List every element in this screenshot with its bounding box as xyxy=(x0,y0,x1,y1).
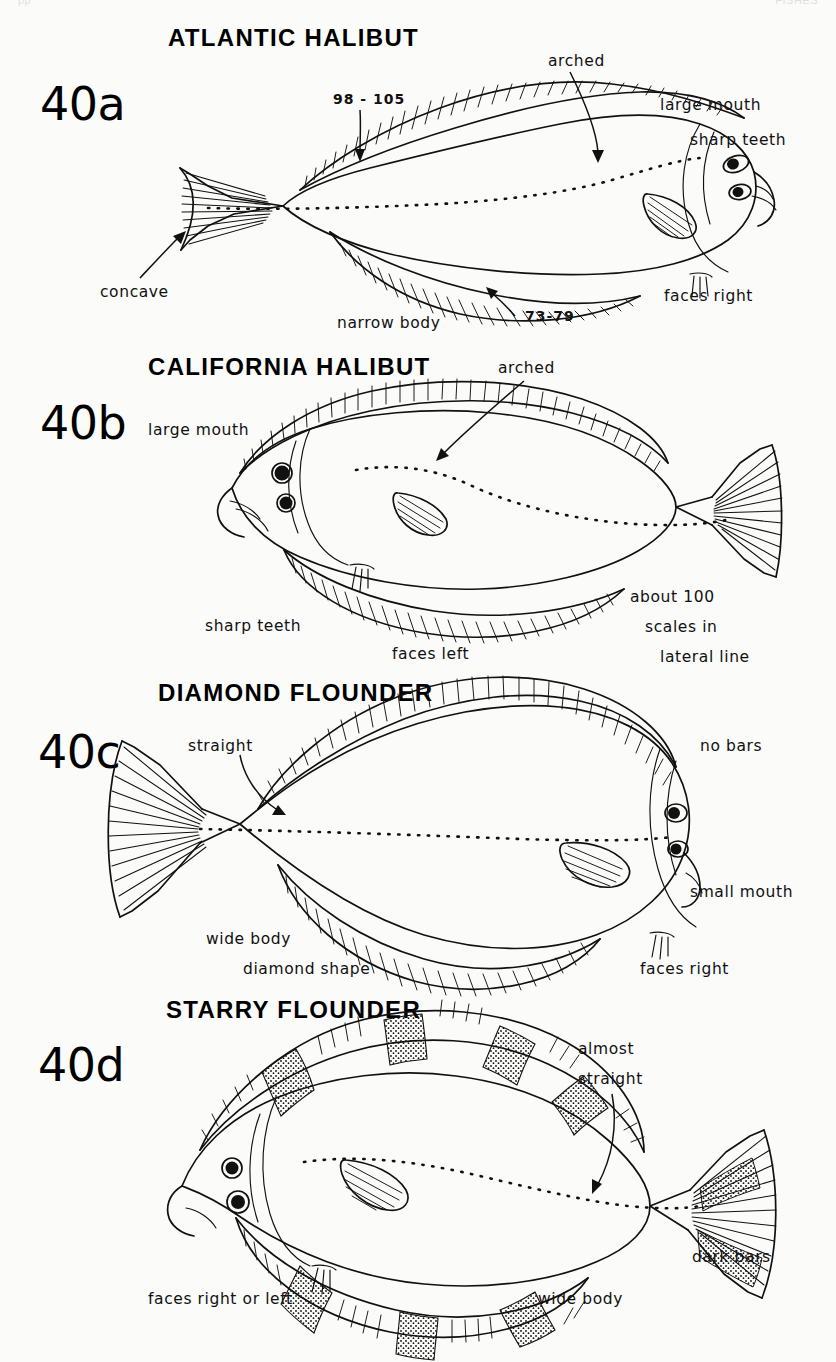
illustration-page: pp FISHES ATLANTIC HALIBUT 40a 98 - 105 … xyxy=(0,0,836,1362)
fish-drawing-40d xyxy=(0,990,836,1362)
panel-40a: ATLANTIC HALIBUT 40a 98 - 105 arched lar… xyxy=(0,0,836,345)
fish-drawing-40a xyxy=(0,0,836,345)
panel-40c: DIAMOND FLOUNDER 40c straight no bars sm… xyxy=(0,657,836,990)
panel-40d: STARRY FLOUNDER 40d almost straight dark… xyxy=(0,990,836,1362)
fish-drawing-40c xyxy=(0,657,836,990)
panel-40b: CALIFORNIA HALIBUT 40b large mouth arche… xyxy=(0,345,836,657)
fish-drawing-40b-main xyxy=(0,345,836,657)
